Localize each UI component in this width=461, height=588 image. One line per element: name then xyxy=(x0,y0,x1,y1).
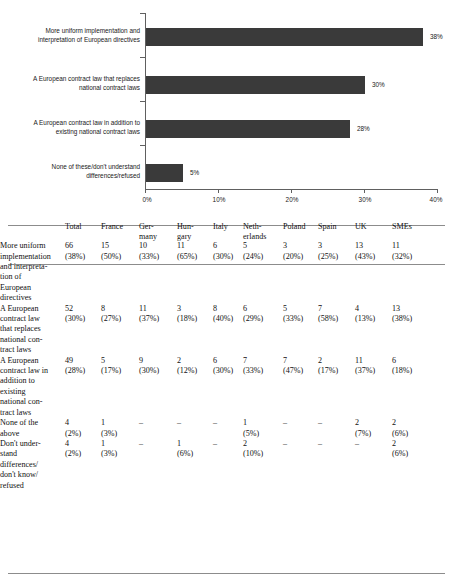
table-col-header-blank xyxy=(0,222,65,241)
table-cell-percent: (7%) xyxy=(355,429,392,439)
table-cell-count: – xyxy=(177,418,213,428)
table-cell-count: 5 xyxy=(283,304,318,314)
chart-bar-0 xyxy=(146,28,423,46)
table-cell-count: 4 xyxy=(65,418,101,428)
table-cell-percent: (20%) xyxy=(283,252,318,262)
table-row-label-line-5: directives xyxy=(0,293,65,303)
chart-category-label-3-line-0: None of these/don't understand xyxy=(52,163,140,170)
table-col-header-total: Total xyxy=(65,222,101,241)
table-cell-count: 7 xyxy=(283,356,318,366)
table-cell-percent: (17%) xyxy=(101,366,139,376)
table-cell-count: 9 xyxy=(139,356,177,366)
table-cell: 10(33%) xyxy=(139,241,177,303)
table-cell-count: 11 xyxy=(392,241,432,251)
table-cell-percent: (28%) xyxy=(65,366,101,376)
table-cell: 6(18%) xyxy=(392,356,432,418)
table-cell: 8(40%) xyxy=(213,304,243,356)
table-cell-count: – xyxy=(213,439,243,449)
table-cell: 1(5%) xyxy=(243,418,283,439)
table-cell-count: – xyxy=(318,439,355,449)
table-cell-percent: (12%) xyxy=(177,366,213,376)
table-cell-count: 2 xyxy=(392,439,432,449)
bar-chart-figure: 0% 10% 20% 30% 40% More uniform implemen… xyxy=(0,0,461,222)
x-axis-tick xyxy=(364,189,365,193)
chart-category-label-3-line-1: differences/refused xyxy=(86,172,140,179)
table-col-header-poland-line-0: Poland xyxy=(283,222,305,231)
table-cell-count: 2 xyxy=(355,418,392,428)
table-cell-count: – xyxy=(139,439,177,449)
table-col-header-italy-line-0: Italy xyxy=(213,222,228,231)
table-header-row: Total France Ger- many Hun- gary Italy N xyxy=(0,222,432,241)
table-cell: 5(17%) xyxy=(101,356,139,418)
table-cell-count: 2 xyxy=(177,356,213,366)
table-cell-percent: (6%) xyxy=(392,429,432,439)
table-cell-percent: (37%) xyxy=(355,366,392,376)
table-cell-count: 66 xyxy=(65,241,101,251)
table-cell-count: 6 xyxy=(213,356,243,366)
table-cell-percent: (30%) xyxy=(65,314,101,324)
chart-bar-value-3: 5% xyxy=(190,164,199,182)
table-row-label-line-4: European xyxy=(0,283,65,293)
table-cell: 52(30%) xyxy=(65,304,101,356)
table-row-label: A Europeancontract law inaddition toexis… xyxy=(0,356,65,418)
x-axis-tick xyxy=(218,189,219,193)
y-axis-tick xyxy=(140,101,145,102)
table-cell-percent: (30%) xyxy=(213,366,243,376)
table-cell-percent: (25%) xyxy=(318,252,355,262)
table-cell: – xyxy=(355,439,392,491)
chart-bar-value-2: 28% xyxy=(357,120,370,138)
y-axis-tick xyxy=(140,13,145,14)
table-col-header-uk: UK xyxy=(355,222,392,241)
table-cell: 11(32%) xyxy=(392,241,432,303)
table-row: More uniformimplementationand interpreta… xyxy=(0,241,432,303)
table-col-header-poland: Poland xyxy=(283,222,318,241)
chart-category-label-2-line-1: existing national contract laws xyxy=(56,128,140,135)
table-cell: 5(24%) xyxy=(243,241,283,303)
table-cell-percent: (5%) xyxy=(243,429,283,439)
table-cell-count: 5 xyxy=(101,356,139,366)
table-cell: 2(12%) xyxy=(177,356,213,418)
table-col-header-france-line-0: France xyxy=(101,222,123,231)
table-cell-count: 2 xyxy=(318,356,355,366)
table-cell-count: 3 xyxy=(318,241,355,251)
table-cell-percent: (6%) xyxy=(392,449,432,459)
table-cell-percent: (37%) xyxy=(139,314,177,324)
table-cell-count: 49 xyxy=(65,356,101,366)
table-col-header-smes-line-0: SMEs xyxy=(392,222,412,231)
table-cell-count: 2 xyxy=(243,439,283,449)
table-row-label-line-3: tion of xyxy=(0,272,65,282)
table-col-header-netherlands-line-1: erlands xyxy=(243,232,266,241)
table-cell-count: – xyxy=(139,418,177,428)
table-col-header-netherlands-line-0: Neth- xyxy=(243,222,261,231)
x-axis-tick xyxy=(291,189,292,193)
table-row-label-line-0: A European xyxy=(0,356,65,366)
table-header-row-group: Total France Ger- many Hun- gary Italy N xyxy=(0,222,432,241)
table-row: None of theabove4(2%)1(3%)–––1(5%)––2(7%… xyxy=(0,418,432,439)
chart-category-label-0: More uniform implementation and interpre… xyxy=(4,27,140,44)
table-cell: – xyxy=(283,439,318,491)
table-cell-percent: (10%) xyxy=(243,449,283,459)
table-row-label-line-2: and interpreta- xyxy=(0,262,65,272)
chart-category-label-1: A European contract law that replaces na… xyxy=(4,75,140,92)
table-cell-count: 6 xyxy=(392,356,432,366)
table-cell: 4(2%) xyxy=(65,418,101,439)
table-cell: 13(38%) xyxy=(392,304,432,356)
table-col-header-hungary-line-1: gary xyxy=(177,232,191,241)
table-row: A Europeancontract lawthat replacesnatio… xyxy=(0,304,432,356)
table-cell: – xyxy=(318,439,355,491)
table-cell: 1(6%) xyxy=(177,439,213,491)
table-cell: – xyxy=(213,439,243,491)
table-cell-count: 52 xyxy=(65,304,101,314)
table-rule-bottom xyxy=(8,573,445,574)
x-tick-label-20: 20% xyxy=(286,196,299,203)
table-cell: 1(3%) xyxy=(101,418,139,439)
table-cell: – xyxy=(177,418,213,439)
table-row-label-line-2: that replaces xyxy=(0,324,65,334)
table-cell: 4(13%) xyxy=(355,304,392,356)
table-cell: 11(37%) xyxy=(355,356,392,418)
x-axis-tick xyxy=(145,189,146,193)
table-cell-percent: (38%) xyxy=(392,314,432,324)
table-cell-percent: (24%) xyxy=(243,252,283,262)
table-cell: 7(47%) xyxy=(283,356,318,418)
table-cell-count: – xyxy=(213,418,243,428)
